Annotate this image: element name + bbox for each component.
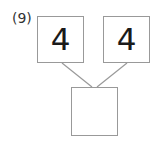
problem-number: (9) — [12, 10, 32, 26]
left-connector-line — [62, 63, 92, 87]
left-number-box: 4 — [37, 16, 84, 63]
right-number-box: 4 — [103, 16, 150, 63]
right-number: 4 — [117, 24, 137, 55]
right-connector-line — [97, 63, 127, 87]
answer-box[interactable] — [71, 87, 118, 136]
left-number: 4 — [51, 24, 71, 55]
